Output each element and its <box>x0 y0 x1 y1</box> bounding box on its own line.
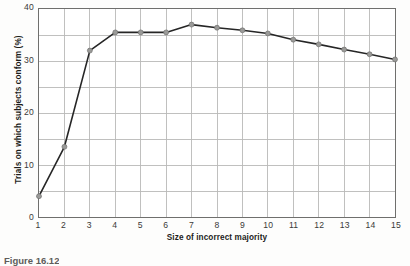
data-point-marker <box>291 37 296 42</box>
x-tick-label: 6 <box>154 220 178 230</box>
data-point-marker <box>367 52 372 57</box>
x-tick-label: 12 <box>307 220 331 230</box>
figure-caption: Figure 16.12 <box>4 255 59 266</box>
data-point-marker <box>342 47 347 52</box>
data-series-line <box>39 9 395 217</box>
data-point-marker <box>240 28 245 33</box>
x-tick-label: 10 <box>256 220 280 230</box>
x-tick-label: 14 <box>358 220 382 230</box>
x-tick-label: 3 <box>77 220 101 230</box>
x-tick-label: 15 <box>384 220 408 230</box>
data-point-marker <box>189 22 194 27</box>
x-tick-label: 4 <box>103 220 127 230</box>
y-tick-label: 10 <box>4 160 34 170</box>
x-tick-label: 1 <box>26 220 50 230</box>
data-point-marker <box>37 194 42 199</box>
x-axis-tick-labels: 123456789101112131415 <box>38 220 396 234</box>
y-tick-label: 40 <box>4 2 34 12</box>
x-tick-label: 2 <box>52 220 76 230</box>
data-point-marker <box>113 30 118 35</box>
x-tick-label: 7 <box>179 220 203 230</box>
plot-area <box>38 8 396 218</box>
data-point-marker <box>393 57 398 62</box>
data-point-marker <box>87 48 92 53</box>
x-tick-label: 5 <box>128 220 152 230</box>
data-point-marker <box>138 30 143 35</box>
x-tick-label: 13 <box>333 220 357 230</box>
x-axis-title: Size of incorrect majority <box>38 233 396 242</box>
data-point-marker <box>164 30 169 35</box>
data-point-marker <box>62 144 67 149</box>
data-point-marker <box>316 42 321 47</box>
x-tick-label: 8 <box>205 220 229 230</box>
data-point-marker <box>215 25 220 30</box>
y-tick-label: 30 <box>4 55 34 65</box>
x-tick-label: 9 <box>231 220 255 230</box>
x-tick-label: 11 <box>282 220 306 230</box>
y-tick-label: 20 <box>4 107 34 117</box>
figure-container: Trials on which subjects conform (%) 010… <box>0 0 410 266</box>
data-point-marker <box>265 31 270 36</box>
